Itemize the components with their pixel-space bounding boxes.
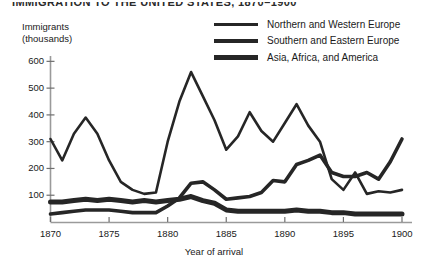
plot-area: 100200300400500600 187018751880188518901…	[0, 0, 428, 266]
y-tick-label: 600	[18, 55, 44, 66]
x-tick-label: 1870	[31, 228, 71, 239]
y-tick-label: 100	[18, 189, 44, 200]
chart-svg	[0, 0, 428, 266]
chart-figure: IMMIGRATION TO THE UNITED STATES, 1870–1…	[0, 0, 428, 266]
x-tick-label: 1875	[89, 228, 129, 239]
x-tick-label: 1895	[323, 228, 363, 239]
x-tick-label: 1900	[382, 228, 422, 239]
x-tick-label: 1880	[148, 228, 188, 239]
y-tick-label: 500	[18, 82, 44, 93]
y-tick-label: 400	[18, 109, 44, 120]
data-lines	[51, 72, 403, 214]
x-axis-title: Year of arrival	[0, 246, 428, 257]
y-tick-label: 200	[18, 162, 44, 173]
y-tick-label: 300	[18, 136, 44, 147]
x-tick-label: 1885	[206, 228, 246, 239]
x-tick-label: 1890	[265, 228, 305, 239]
